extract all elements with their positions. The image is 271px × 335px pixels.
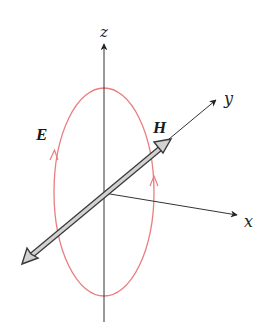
x-axis (104, 193, 237, 215)
magnetic-field-label: H (152, 118, 167, 137)
em-field-diagram: z y x E H (0, 0, 271, 335)
y-axis-label: y (223, 89, 234, 108)
z-axis-label: z (99, 23, 108, 41)
electric-field-label: E (35, 125, 47, 144)
magnetic-field-arrow (22, 139, 171, 264)
x-axis-label: x (244, 212, 253, 231)
